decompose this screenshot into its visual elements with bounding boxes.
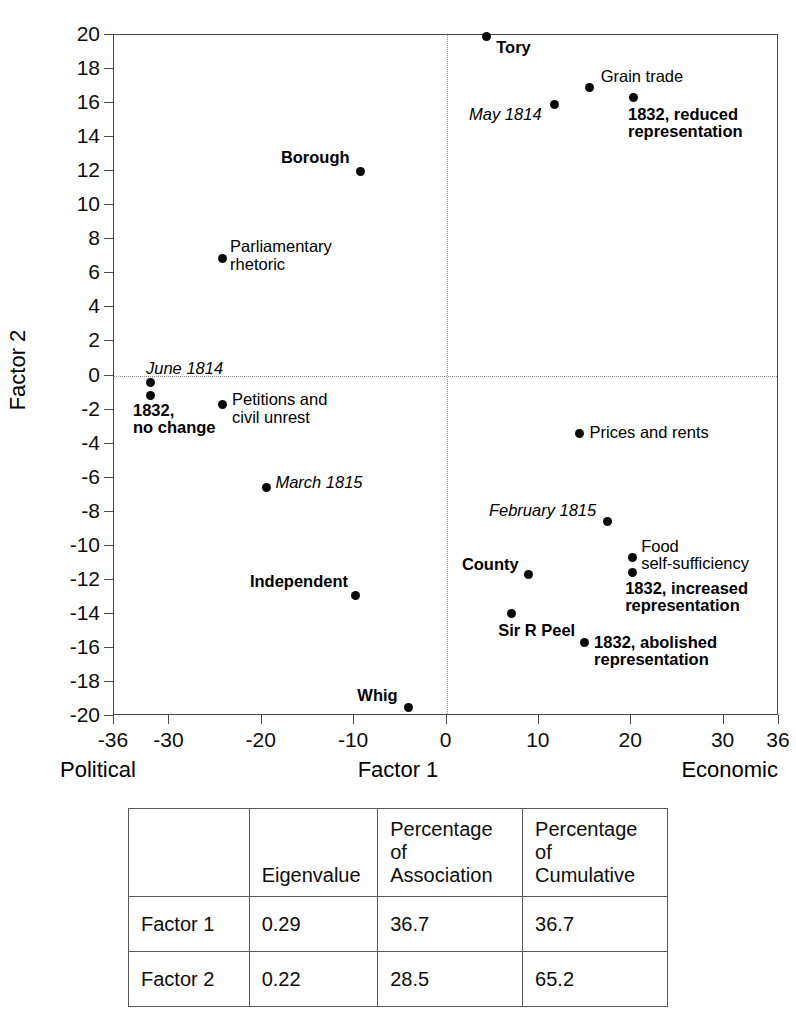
vertical-zero-line — [447, 35, 448, 714]
header-line-1: Eigenvalue — [262, 864, 361, 886]
point-label: Parliamentary rhetoric — [230, 238, 332, 273]
y-tick-mark — [104, 579, 113, 580]
y-tick-label: 4 — [48, 295, 100, 316]
table-cell-pct-cumulative: 65.2 — [523, 952, 668, 1007]
data-point — [146, 378, 155, 387]
y-tick-label: 16 — [48, 91, 100, 112]
x-tick-mark — [353, 715, 354, 724]
data-point — [262, 483, 271, 492]
x-axis-pole-left: Political — [60, 757, 136, 783]
table-cell-pct-association: 36.7 — [378, 897, 523, 952]
table-column-header — [129, 809, 250, 897]
point-label: 1832, no change — [133, 402, 216, 437]
y-tick-mark — [104, 68, 113, 69]
x-tick-label: 20 — [595, 729, 665, 750]
table-column-header: Percentage ofCumulative — [523, 809, 668, 897]
header-line-2: Cumulative — [535, 864, 655, 887]
point-label: Independent — [250, 573, 348, 591]
x-tick-mark — [261, 715, 262, 724]
point-label: County — [462, 556, 519, 574]
data-point — [580, 638, 589, 647]
x-tick-label: -30 — [133, 729, 203, 750]
y-tick-mark — [104, 306, 113, 307]
data-point — [351, 591, 360, 600]
y-tick-mark — [104, 136, 113, 137]
y-tick-label: -20 — [48, 704, 100, 725]
data-point — [482, 32, 491, 41]
table-column-header: Eigenvalue — [249, 809, 378, 897]
point-label: Borough — [281, 149, 350, 167]
point-label: Whig — [357, 687, 397, 705]
data-point — [507, 609, 516, 618]
y-tick-mark — [104, 545, 113, 546]
data-point — [585, 83, 594, 92]
y-tick-mark — [104, 272, 113, 273]
table-row: Factor 20.2228.565.2 — [129, 952, 668, 1007]
point-label: Grain trade — [601, 68, 684, 86]
data-point — [628, 568, 637, 577]
point-label: 1832, abolished representation — [594, 634, 717, 669]
y-tick-mark — [104, 613, 113, 614]
y-tick-mark — [104, 34, 113, 35]
y-tick-label: -12 — [48, 568, 100, 589]
y-tick-mark — [104, 102, 113, 103]
scatter-plot-area: ToryGrain tradeMay 18141832, reduced rep… — [113, 34, 778, 715]
y-tick-label: -8 — [48, 500, 100, 521]
y-tick-label: -14 — [48, 602, 100, 623]
table-column-header: Percentage ofAssociation — [378, 809, 523, 897]
data-point — [524, 570, 533, 579]
y-tick-mark — [104, 375, 113, 376]
y-tick-mark — [104, 340, 113, 341]
y-tick-label: 0 — [48, 364, 100, 385]
x-tick-mark — [446, 715, 447, 724]
data-point — [356, 167, 365, 176]
x-tick-label: -10 — [318, 729, 388, 750]
x-tick-mark — [630, 715, 631, 724]
point-label: Food self-sufficiency — [641, 538, 749, 573]
y-tick-label: 12 — [48, 159, 100, 180]
table-cell-pct-association: 28.5 — [378, 952, 523, 1007]
x-tick-label: -20 — [226, 729, 296, 750]
y-tick-mark — [104, 204, 113, 205]
table-cell-name: Factor 1 — [129, 897, 250, 952]
x-axis-pole-right: Economic — [681, 757, 778, 783]
y-tick-label: 8 — [48, 227, 100, 248]
data-point — [218, 254, 227, 263]
point-label: Petitions and civil unrest — [232, 391, 327, 426]
data-point — [404, 703, 413, 712]
y-tick-mark — [104, 647, 113, 648]
y-tick-label: -4 — [48, 432, 100, 453]
point-label: Sir R Peel — [498, 622, 575, 640]
header-line-2: Association — [390, 864, 510, 887]
data-point — [575, 429, 584, 438]
data-point — [550, 100, 559, 109]
y-axis-label-wrap: Factor 2 — [0, 290, 38, 450]
table-row: Factor 10.2936.736.7 — [129, 897, 668, 952]
table-body: Factor 10.2936.736.7Factor 20.2228.565.2 — [129, 897, 668, 1007]
y-tick-mark — [104, 443, 113, 444]
x-tick-mark — [538, 715, 539, 724]
y-tick-mark — [104, 409, 113, 410]
y-tick-mark — [104, 681, 113, 682]
data-point — [146, 391, 155, 400]
y-tick-mark — [104, 477, 113, 478]
point-label: Prices and rents — [590, 424, 709, 442]
y-tick-mark — [104, 511, 113, 512]
table-header: EigenvaluePercentage ofAssociationPercen… — [129, 809, 668, 897]
data-point — [628, 553, 637, 562]
y-tick-label: 20 — [48, 23, 100, 44]
point-label: June 1814 — [146, 360, 223, 378]
table-cell-eigenvalue: 0.29 — [249, 897, 378, 952]
data-point — [218, 400, 227, 409]
y-tick-label: 10 — [48, 193, 100, 214]
x-tick-mark — [723, 715, 724, 724]
point-label: 1832, increased representation — [625, 580, 748, 615]
y-tick-label: 2 — [48, 329, 100, 350]
y-axis-label: Factor 2 — [5, 330, 31, 411]
y-tick-label: -16 — [48, 636, 100, 657]
y-tick-label: -6 — [48, 466, 100, 487]
y-tick-label: -2 — [48, 398, 100, 419]
point-label: Tory — [496, 39, 531, 57]
y-tick-label: -10 — [48, 534, 100, 555]
x-tick-mark — [113, 715, 114, 724]
